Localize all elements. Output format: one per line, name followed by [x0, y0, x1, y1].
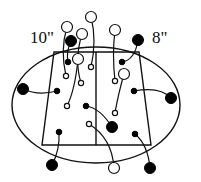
filled-inner-point	[132, 131, 138, 137]
hollow-outer-node	[110, 25, 121, 36]
size-label-left: 10"	[30, 28, 54, 47]
hollow-inner-point	[63, 73, 68, 78]
filled-outer-node	[18, 84, 29, 95]
filled-outer-node	[166, 93, 177, 104]
hollow-outer-node	[109, 163, 120, 174]
filled-outer-node	[66, 36, 77, 47]
filled-inner-point	[83, 103, 89, 109]
hollow-inner-point	[78, 80, 83, 85]
filled-outer-node	[133, 35, 144, 46]
filled-outer-node	[47, 160, 58, 171]
hollow-outer-node	[77, 29, 88, 40]
hollow-inner-point	[112, 110, 117, 115]
hollow-outer-node	[73, 54, 84, 65]
hollow-inner-point	[112, 78, 117, 83]
hollow-inner-point	[88, 64, 93, 69]
hollow-outer-node	[119, 69, 130, 80]
hollow-outer-node	[86, 12, 97, 23]
connection-line	[114, 30, 116, 81]
connection-diagram: 10" 8"	[0, 0, 201, 182]
filled-inner-point	[65, 59, 71, 65]
connection-line	[67, 59, 78, 106]
filled-inner-point	[56, 129, 62, 135]
filled-outer-node	[145, 163, 156, 174]
hollow-inner-point	[86, 121, 91, 126]
hollow-inner-point	[64, 103, 69, 108]
filled-inner-point	[119, 59, 125, 65]
connection-line	[91, 17, 94, 67]
filled-inner-point	[54, 88, 60, 94]
filled-inner-point	[131, 88, 137, 94]
hollow-outer-node	[62, 22, 73, 33]
filled-outer-node	[107, 122, 118, 133]
size-label-right: 8"	[152, 28, 167, 47]
